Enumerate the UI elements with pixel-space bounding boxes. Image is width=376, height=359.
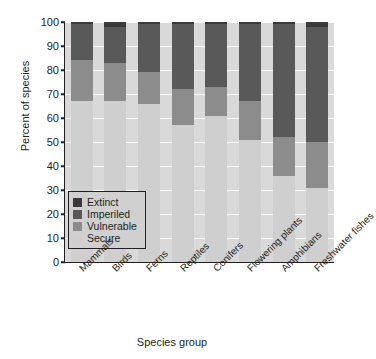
legend-item-imperiled[interactable]: Imperiled [73, 208, 137, 220]
bar-segment-vulnerable [239, 101, 261, 139]
bar-freshwater-fishes[interactable] [306, 22, 328, 262]
legend-label-extinct: Extinct [87, 196, 119, 208]
bar-segment-vulnerable [205, 87, 227, 116]
bar-segment-imperiled [306, 27, 328, 142]
bar-conifers[interactable] [205, 22, 227, 262]
legend-item-extinct[interactable]: Extinct [73, 196, 137, 208]
bar-segment-imperiled [138, 24, 160, 72]
bar-segment-imperiled [273, 24, 295, 137]
legend-label-imperiled: Imperiled [87, 208, 130, 220]
bar-segment-secure [205, 116, 227, 262]
legend-swatch-vulnerable [73, 222, 82, 231]
legend-item-vulnerable[interactable]: Vulnerable [73, 220, 137, 232]
legend-swatch-secure [73, 234, 82, 243]
bar-segment-vulnerable [104, 63, 126, 101]
bar-segment-vulnerable [306, 142, 328, 188]
bar-segment-secure [172, 125, 194, 262]
bar-segment-imperiled [205, 24, 227, 86]
bar-segment-vulnerable [71, 60, 93, 101]
bar-reptiles[interactable] [172, 22, 194, 262]
bar-segment-vulnerable [273, 137, 295, 175]
bar-segment-vulnerable [138, 72, 160, 103]
bar-segment-imperiled [239, 24, 261, 101]
x-axis-title: Species group [0, 336, 344, 348]
y-axis-title: Percent of species [19, 36, 31, 176]
bar-segment-imperiled [104, 27, 126, 63]
bar-segment-vulnerable [172, 89, 194, 125]
bar-segment-imperiled [71, 24, 93, 60]
legend-swatch-extinct [73, 198, 82, 207]
bar-flowering-plants[interactable] [239, 22, 261, 262]
legend-swatch-imperiled [73, 210, 82, 219]
bar-segment-imperiled [172, 24, 194, 89]
legend-label-vulnerable: Vulnerable [87, 220, 137, 232]
